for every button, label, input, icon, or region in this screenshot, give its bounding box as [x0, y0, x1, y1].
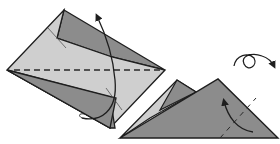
origami-diagram	[0, 0, 280, 144]
turn-over-icon	[234, 54, 274, 67]
folded-model	[7, 10, 165, 128]
